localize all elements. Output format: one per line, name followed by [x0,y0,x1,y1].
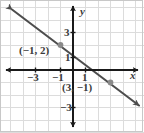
y-tick-label-1: 1 [65,52,71,63]
coordinate-plane-svg [0,0,144,133]
y-tick-label-3: 3 [64,27,70,38]
point-label-neg1-2: (−1, 2) [19,45,49,56]
y-tick-label-neg3: −3 [60,102,72,113]
grid-lines [0,0,144,133]
point-label-3-neg1: (3, −1) [62,82,92,93]
coordinate-graph-figure: y x 3 1 −3 −3 −1 1 (−1, 2) (3, −1) [0,0,144,133]
axis-lines [6,6,138,127]
y-axis-label: y [80,6,85,17]
x-tick-label-neg3: −3 [27,72,39,83]
x-axis-label: x [130,70,136,81]
